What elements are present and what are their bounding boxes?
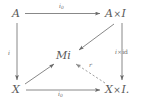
arrow-diagonal-X-to-Mi	[25, 64, 54, 84]
edge-label-left-i-text: i	[8, 49, 10, 56]
times-symbol-icon: ×	[113, 9, 122, 19]
commutative-diagram: A A×I Mi X X×I. i0 i i×id i0 r	[0, 0, 147, 111]
node-label-I-operand-period: I.	[121, 83, 129, 96]
edge-label-left-i: i	[8, 50, 10, 56]
node-bottom-right-X-times-I: X×I.	[105, 84, 129, 95]
edge-label-top-subscript: 0	[61, 5, 64, 10]
edge-label-right-id: id	[122, 48, 128, 55]
edge-label-r-text: r	[89, 61, 92, 68]
node-label-A-operand: A	[105, 7, 113, 20]
node-bottom-left-X: X	[12, 84, 20, 95]
edge-label-top-i0: i0	[59, 3, 64, 10]
edge-label-right-i-times-id: i×id	[115, 49, 128, 56]
edge-label-bottom-i0: i0	[58, 91, 63, 98]
node-center-Mi: Mi	[56, 50, 71, 61]
edge-label-bottom-subscript: 0	[60, 93, 63, 98]
node-top-left-A: A	[12, 8, 20, 19]
edge-label-retraction-r: r	[89, 62, 92, 68]
node-label-Mi: Mi	[56, 49, 71, 62]
node-label-X-operand: X	[105, 83, 113, 96]
node-label-A: A	[12, 7, 20, 20]
node-top-right-A-times-I: A×I	[105, 8, 126, 19]
node-label-I-operand: I	[122, 7, 126, 20]
node-label-X: X	[12, 83, 20, 96]
arrow-diagonal-AxI-to-Mi	[79, 24, 114, 50]
